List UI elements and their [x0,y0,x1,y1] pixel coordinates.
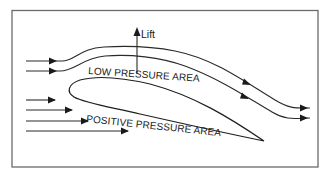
up-arrow-icon [134,27,141,36]
arrowhead-icon [49,58,57,65]
arrowhead-icon [49,68,57,75]
lift-label: Lift [141,28,155,40]
arrowhead-icon [300,115,308,122]
airfoil-lift-diagram: Lift LOW PRESSURE AREA POSITIVE PRESSURE… [0,0,327,174]
lift-arrow: Lift [134,27,156,74]
arrowhead-icon [121,128,129,135]
arrowhead-icon [48,97,56,104]
arrowhead-icon [300,105,308,112]
arrowhead-icon [242,79,251,86]
arrowhead-icon [65,107,73,114]
